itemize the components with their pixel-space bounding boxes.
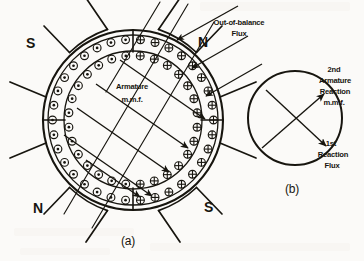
conductor-cross	[198, 158, 206, 166]
conductor-cross	[190, 95, 198, 103]
mmf-arrow-3	[64, 135, 152, 196]
conductor-dot	[122, 196, 130, 204]
conductor-cross	[190, 137, 198, 145]
conductor-cross	[204, 145, 212, 153]
conductor-dot	[74, 150, 82, 158]
panel-b-label-1st-line2: Reaction	[308, 151, 358, 159]
conductor-cross	[150, 177, 158, 185]
conductor-cross	[198, 74, 206, 82]
conductor-dot	[50, 131, 58, 139]
armature-mmf-label-line2: m.m.f.	[107, 96, 157, 104]
conductor-dot	[54, 87, 62, 95]
conductor-cross	[193, 123, 201, 131]
conductor-dot	[75, 82, 83, 90]
conductor-dot	[70, 170, 78, 178]
pole-label-bottom-left: N	[33, 201, 43, 215]
pole-label-top-left: S	[26, 36, 35, 50]
conductor-cross	[189, 170, 197, 178]
conductor-cross	[165, 44, 173, 52]
conductor-cross	[163, 171, 171, 179]
conductor-cross	[175, 162, 183, 170]
armature-mmf-arrows	[64, 60, 205, 197]
conductor-dot	[61, 74, 69, 82]
conductor-dot	[61, 158, 69, 166]
out-of-balance-flux-label-line1: Out-of-balance	[199, 19, 279, 27]
conductor-dot	[84, 70, 92, 78]
conductor-symbols	[49, 36, 218, 204]
panel-b-label-2nd-line3: Reaction	[310, 88, 360, 96]
panel-b-label-2nd-line2: Armature	[310, 77, 360, 85]
armature-mmf-label-line1: Armature	[101, 83, 163, 91]
conductor-dot	[81, 52, 89, 60]
conductor-cross	[151, 39, 159, 47]
armature-reaction-diagram	[0, 0, 364, 261]
panel-b-label-1st-line3: Flux	[311, 162, 353, 170]
panel-b-label-2nd-line4: m.m.f.	[310, 99, 358, 107]
trace-3	[106, 2, 160, 92]
conductor-dot	[107, 39, 115, 47]
panel-b-label-1st-line1: 1st	[311, 140, 351, 148]
conductor-cross	[151, 194, 159, 202]
mmf-arrow-1	[96, 84, 188, 148]
conductor-dot	[65, 123, 73, 131]
caption-panel-a: (a)	[121, 235, 135, 247]
conductor-dot	[122, 36, 130, 44]
conductor-dot	[70, 62, 78, 70]
mmf-arrow-2	[77, 108, 169, 172]
conductor-cross	[137, 196, 145, 204]
armature-mid-circle	[48, 35, 218, 205]
pole-label-top-right: N	[198, 35, 208, 49]
conductor-dot	[93, 188, 101, 196]
conductor-cross	[208, 131, 216, 139]
conductor-cross	[208, 101, 216, 109]
conductor-dot	[50, 101, 58, 109]
out-of-balance-flux-label-line2: Flux	[214, 30, 264, 38]
pole-label-bottom-right: S	[204, 200, 213, 214]
conductor-dot	[65, 109, 73, 117]
caption-panel-b: (b)	[285, 183, 299, 195]
conductor-dot	[108, 55, 116, 63]
conductor-cross	[184, 150, 192, 158]
panel-b-label-2nd-line1: 2nd	[310, 66, 358, 74]
conductor-cross	[136, 52, 144, 60]
conductor-dot	[93, 44, 101, 52]
conductor-cross	[136, 180, 144, 188]
conductor-cross	[163, 62, 171, 70]
conductor-dot	[95, 61, 103, 69]
conductor-dot	[54, 145, 62, 153]
conductor-dot	[95, 171, 103, 179]
conductor-cross	[178, 52, 186, 60]
conductor-cross	[184, 82, 192, 90]
conductor-cross	[165, 188, 173, 196]
conductor-cross	[178, 180, 186, 188]
conductor-dot	[68, 95, 76, 103]
